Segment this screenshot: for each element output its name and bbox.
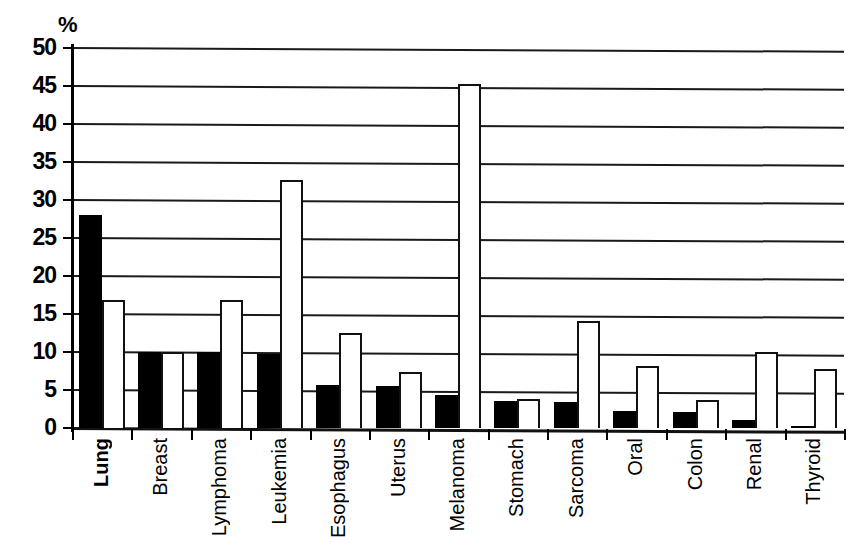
x-axis-label-leukemia: Leukemia bbox=[269, 438, 289, 525]
bar-white bbox=[220, 300, 243, 428]
bar-group bbox=[435, 48, 481, 428]
x-axis-line bbox=[71, 427, 846, 434]
x-axis-label-stomach: Stomach bbox=[506, 438, 526, 517]
bar-group bbox=[316, 48, 362, 428]
bar-white bbox=[161, 352, 184, 428]
bar-white bbox=[399, 372, 422, 428]
x-axis-label-colon: Colon bbox=[685, 438, 705, 490]
bar-group bbox=[257, 48, 303, 428]
x-axis-label-lung: Lung bbox=[91, 438, 111, 487]
bar-series-container bbox=[72, 48, 844, 428]
bar-group bbox=[673, 48, 719, 428]
bar-group bbox=[791, 48, 837, 428]
bar-group bbox=[138, 48, 184, 428]
bar-black bbox=[554, 402, 577, 428]
x-axis-tick bbox=[191, 429, 193, 440]
plot-area: 05101520253035404550 bbox=[72, 48, 844, 428]
x-axis-label-thyroid: Thyroid bbox=[803, 438, 823, 505]
y-axis-tick-label: 30 bbox=[0, 188, 56, 211]
bar-white bbox=[280, 180, 303, 428]
bar-group bbox=[732, 48, 778, 428]
bar-black bbox=[435, 395, 458, 428]
y-axis-tick-label: 15 bbox=[0, 302, 56, 325]
x-axis-tick bbox=[844, 429, 846, 440]
x-axis-tick bbox=[72, 429, 74, 440]
x-axis-tick bbox=[250, 429, 252, 440]
bar-white bbox=[458, 84, 481, 428]
x-axis-tick bbox=[785, 429, 787, 440]
bar-black bbox=[257, 354, 280, 428]
y-axis-tick-label: 25 bbox=[0, 226, 56, 249]
bar-black bbox=[673, 412, 696, 428]
bar-black bbox=[316, 385, 339, 428]
x-axis-tick bbox=[725, 429, 727, 440]
x-axis-tick bbox=[666, 429, 668, 440]
bar-group bbox=[197, 48, 243, 428]
x-axis-label-breast: Breast bbox=[150, 438, 170, 496]
bar-group bbox=[613, 48, 659, 428]
chart-figure: % 05101520253035404550 LungBreastLymphom… bbox=[0, 0, 856, 548]
bar-white bbox=[636, 366, 659, 428]
bar-white bbox=[696, 400, 719, 428]
x-axis-tick bbox=[131, 429, 133, 440]
y-axis-tick-label: 40 bbox=[0, 112, 56, 135]
x-axis-label-oral: Oral bbox=[625, 438, 645, 476]
bar-group bbox=[79, 48, 125, 428]
bar-white bbox=[755, 352, 778, 428]
bar-white bbox=[339, 333, 362, 428]
x-axis-tick bbox=[547, 429, 549, 440]
y-axis-tick-label: 5 bbox=[0, 378, 56, 401]
y-axis-unit-label: % bbox=[58, 14, 77, 36]
x-axis-tick bbox=[606, 429, 608, 440]
x-axis-tick bbox=[428, 429, 430, 440]
bar-group bbox=[376, 48, 422, 428]
bar-black bbox=[376, 386, 399, 428]
x-axis-label-esophagus: Esophagus bbox=[328, 438, 348, 538]
x-axis-label-sarcoma: Sarcoma bbox=[566, 438, 586, 518]
x-axis-label-uterus: Uterus bbox=[388, 438, 408, 497]
y-axis-tick-label: 20 bbox=[0, 264, 56, 287]
bar-group bbox=[494, 48, 540, 428]
bar-black bbox=[138, 352, 161, 428]
y-axis-tick-label: 0 bbox=[0, 416, 56, 439]
x-axis-tick bbox=[488, 429, 490, 440]
bar-black bbox=[613, 411, 636, 428]
bar-white bbox=[814, 369, 837, 428]
bar-black bbox=[79, 215, 102, 428]
bar-black bbox=[494, 401, 517, 428]
bar-white bbox=[577, 321, 600, 428]
y-axis-tick-label: 50 bbox=[0, 36, 56, 59]
bar-black bbox=[732, 420, 755, 428]
y-axis-tick-label: 45 bbox=[0, 74, 56, 97]
x-axis-label-melanoma: Melanoma bbox=[447, 438, 467, 531]
x-axis-tick bbox=[369, 429, 371, 440]
bar-black bbox=[791, 426, 814, 428]
x-axis-label-lymphoma: Lymphoma bbox=[209, 438, 229, 536]
bar-white bbox=[517, 399, 540, 428]
bar-group bbox=[554, 48, 600, 428]
bar-black bbox=[197, 352, 220, 428]
x-axis-tick bbox=[310, 429, 312, 440]
y-axis-tick-label: 10 bbox=[0, 340, 56, 363]
bar-white bbox=[102, 300, 125, 428]
x-axis-label-renal: Renal bbox=[744, 438, 764, 490]
y-axis-tick-label: 35 bbox=[0, 150, 56, 173]
